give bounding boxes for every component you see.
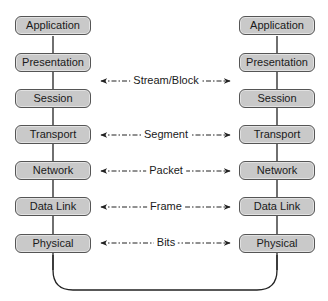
pdu-label-bits: Bits [154,236,178,249]
right-layer-transport: Transport [239,125,315,144]
right-layer-physical: Physical [239,234,315,253]
pdu-label-frame: Frame [147,200,185,213]
left-layer-application: Application [15,16,91,35]
diagram-canvas [0,0,328,301]
left-layer-network: Network [15,161,91,180]
right-layer-session: Session [239,89,315,108]
left-layer-data-link: Data Link [15,197,91,216]
right-layer-application: Application [239,16,315,35]
physical-medium-connector [53,255,277,290]
pdu-label-stream-block: Stream/Block [130,74,201,87]
pdu-label-segment: Segment [141,128,191,141]
right-layer-presentation: Presentation [239,53,315,72]
right-layer-network: Network [239,161,315,180]
left-layer-physical: Physical [15,234,91,253]
left-layer-session: Session [15,89,91,108]
left-layer-transport: Transport [15,125,91,144]
pdu-label-packet: Packet [146,164,186,177]
right-layer-data-link: Data Link [239,197,315,216]
left-layer-presentation: Presentation [15,53,91,72]
